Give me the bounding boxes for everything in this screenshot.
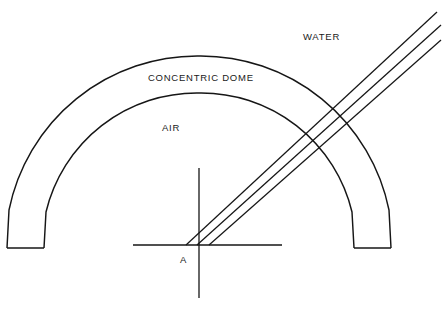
ray-3 (209, 40, 441, 245)
figure-root: WATER CONCENTRIC DOME AIR A (0, 0, 442, 311)
label-point-a: A (180, 255, 186, 265)
label-water: WATER (303, 32, 340, 42)
ray-1 (186, 12, 437, 245)
diagram-canvas (0, 0, 442, 311)
label-concentric-dome: CONCENTRIC DOME (148, 73, 254, 83)
label-air: AIR (162, 123, 180, 133)
ray-2 (197, 25, 441, 245)
